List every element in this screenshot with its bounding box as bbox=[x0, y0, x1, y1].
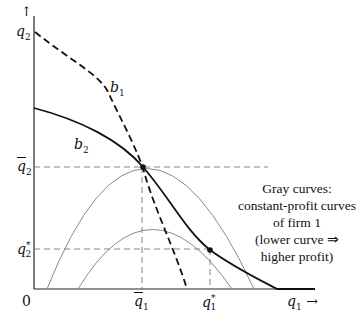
b1-curve bbox=[35, 32, 187, 289]
tick-q2-bar: q2 bbox=[17, 159, 32, 177]
b2-label: b2 bbox=[74, 137, 89, 155]
isoprofit-curve-lower bbox=[78, 230, 232, 290]
tick-q2-star: q*2 bbox=[17, 241, 31, 259]
x-axis-arrow-icon: → bbox=[306, 293, 318, 309]
y-axis-arrow-icon: ↑ bbox=[21, 5, 32, 18]
annotation-line-3: of firm 1 bbox=[236, 214, 358, 231]
origin-label: 0 bbox=[22, 294, 31, 308]
annotation-line-4: (lower curve ⇒ bbox=[236, 231, 358, 248]
isoprofit-curve-upper bbox=[47, 169, 254, 290]
reaction-curve-diagram bbox=[0, 0, 361, 323]
b1-label: b1 bbox=[110, 80, 125, 98]
point-q-star bbox=[207, 247, 213, 253]
tick-q1-bar: q1 bbox=[134, 294, 149, 312]
tick-q1-star: q*1 bbox=[202, 294, 216, 312]
x-axis-label: q1 → bbox=[287, 294, 318, 312]
point-q-bar bbox=[140, 164, 146, 170]
annotation-line-5: higher profit) bbox=[236, 248, 358, 265]
annotation-line-2: constant-profit curves bbox=[236, 197, 358, 214]
annotation-note: Gray curves: constant-profit curves of f… bbox=[236, 180, 358, 265]
annotation-line-1: Gray curves: bbox=[236, 180, 358, 197]
y-axis-label: q2 bbox=[16, 24, 31, 42]
